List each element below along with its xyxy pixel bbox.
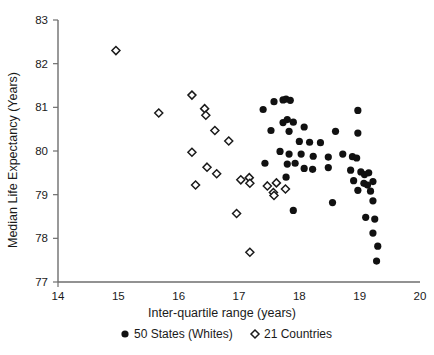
x-tick-label: 15	[112, 290, 125, 302]
data-point-state	[350, 177, 357, 184]
data-point-country	[263, 182, 271, 190]
data-point-state	[260, 106, 267, 113]
data-point-state	[325, 154, 332, 161]
data-point-state	[373, 257, 380, 264]
data-point-state	[290, 119, 297, 126]
data-point-country	[112, 47, 120, 55]
data-point-country	[188, 91, 196, 99]
data-point-state	[332, 128, 339, 135]
y-axis-title: Median Life Expectancy (Years)	[6, 72, 20, 248]
data-point-country	[211, 126, 219, 134]
data-point-state	[347, 167, 354, 174]
data-point-state	[306, 139, 313, 146]
data-point-state	[354, 129, 361, 136]
data-point-state	[317, 139, 324, 146]
y-tick-label: 81	[35, 101, 48, 113]
data-point-country	[246, 248, 254, 256]
x-axis-title: Inter-quartile range (years)	[148, 306, 296, 320]
data-point-state	[367, 188, 374, 195]
data-point-state	[339, 150, 346, 157]
x-tick-label: 16	[172, 290, 185, 302]
data-point-state	[325, 164, 332, 171]
data-point-state	[267, 127, 274, 134]
data-point-state	[287, 97, 294, 104]
axis-labels-group: Median Life Expectancy (Years) Inter-qua…	[6, 72, 296, 320]
data-point-state	[353, 154, 360, 161]
data-point-state	[301, 165, 308, 172]
data-point-state	[276, 148, 283, 155]
y-axis-ticks: 77787980818283	[35, 14, 58, 288]
data-points-group	[112, 47, 381, 265]
data-point-country	[202, 111, 210, 119]
data-point-state	[371, 216, 378, 223]
legend-marker-open-diamond-icon	[251, 330, 259, 338]
data-point-state	[270, 98, 277, 105]
data-point-state	[369, 178, 376, 185]
data-point-state	[292, 160, 299, 167]
data-point-state	[309, 166, 316, 173]
data-point-state	[369, 197, 376, 204]
axes-group	[58, 20, 420, 282]
y-tick-label: 77	[35, 276, 48, 288]
x-tick-label: 19	[353, 290, 366, 302]
data-point-country	[213, 170, 221, 178]
data-point-state	[261, 160, 268, 167]
legend: 50 States (Whites)21 Countries	[121, 327, 332, 341]
data-point-state	[282, 174, 289, 181]
legend-label: 50 States (Whites)	[134, 327, 233, 341]
data-point-state	[284, 161, 291, 168]
y-tick-label: 79	[35, 189, 48, 201]
data-point-state	[365, 169, 372, 176]
y-tick-label: 80	[35, 145, 48, 157]
data-point-state	[301, 123, 308, 130]
data-point-state	[285, 150, 292, 157]
data-point-country	[192, 181, 200, 189]
plot-canvas: 77787980818283 14151617181920 Median Lif…	[0, 0, 434, 355]
data-point-state	[329, 199, 336, 206]
legend-marker-filled-circle-icon	[121, 330, 128, 337]
y-tick-label: 82	[35, 58, 48, 70]
data-point-state	[354, 107, 361, 114]
data-point-country	[203, 163, 211, 171]
data-point-state	[354, 187, 361, 194]
data-point-state	[374, 243, 381, 250]
x-tick-label: 17	[233, 290, 246, 302]
data-point-country	[281, 185, 289, 193]
data-point-state	[369, 229, 376, 236]
legend-label: 21 Countries	[264, 327, 332, 341]
x-tick-label: 18	[293, 290, 306, 302]
data-point-country	[233, 209, 241, 217]
data-point-country	[225, 137, 233, 145]
data-point-country	[237, 176, 245, 184]
scatter-chart: 77787980818283 14151617181920 Median Lif…	[0, 0, 434, 355]
y-tick-label: 78	[35, 232, 48, 244]
data-point-state	[362, 214, 369, 221]
data-point-country	[272, 179, 280, 187]
data-point-state	[285, 128, 292, 135]
x-tick-label: 14	[52, 290, 65, 302]
data-point-country	[246, 179, 254, 187]
y-tick-label: 83	[35, 14, 48, 26]
data-point-state	[298, 150, 305, 157]
data-point-state	[296, 138, 303, 145]
data-point-state	[310, 153, 317, 160]
data-point-country	[155, 109, 163, 117]
data-point-state	[290, 207, 297, 214]
x-axis-ticks: 14151617181920	[52, 282, 427, 302]
data-point-country	[188, 148, 196, 156]
x-tick-label: 20	[414, 290, 427, 302]
